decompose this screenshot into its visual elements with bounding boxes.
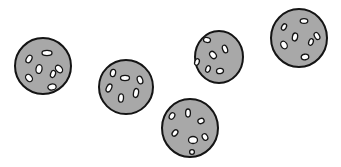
cookie-spot [110, 69, 116, 77]
cookie-spot [190, 150, 195, 155]
cookie-spot [189, 137, 198, 144]
cookie-spot [301, 54, 309, 61]
cookie-2 [99, 60, 153, 114]
cookie-1 [15, 38, 71, 94]
cookie-spot [121, 75, 130, 80]
cookie-body [195, 31, 243, 83]
cookie-4 [194, 31, 243, 83]
cookie-body [162, 99, 218, 157]
cookie-spot [42, 50, 52, 55]
cookie-spot [300, 19, 308, 24]
cookie-spot [118, 94, 124, 103]
cookies-illustration [0, 0, 341, 167]
cookie-body [15, 38, 71, 94]
cookie-spot [186, 109, 191, 117]
cookie-5 [271, 9, 327, 67]
cookie-spot [216, 68, 224, 74]
cookie-spot [292, 33, 299, 42]
cookie-spot [203, 37, 211, 43]
cookie-3 [162, 99, 218, 157]
